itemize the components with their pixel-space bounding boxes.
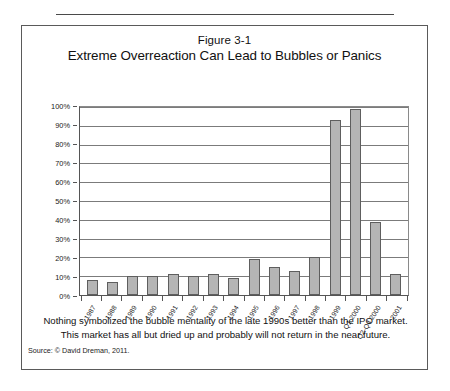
bar bbox=[168, 274, 179, 295]
x-axis-tick bbox=[407, 296, 408, 301]
bar bbox=[188, 276, 199, 295]
bar bbox=[208, 274, 219, 295]
figure-container: Figure 3-1 Extreme Overreaction Can Lead… bbox=[21, 25, 428, 370]
figure-number: Figure 3-1 bbox=[22, 34, 427, 46]
bar-slot bbox=[224, 107, 244, 295]
x-axis-tick bbox=[223, 296, 224, 301]
bar-slot bbox=[325, 107, 345, 295]
bar bbox=[228, 278, 239, 295]
bar-slot bbox=[102, 107, 122, 295]
y-axis-tick-label: 20% bbox=[55, 254, 70, 263]
bar bbox=[309, 257, 320, 295]
x-axis-tick bbox=[284, 296, 285, 301]
y-axis-tick-label: 90% bbox=[55, 121, 70, 130]
bar-chart: 0%10%20%30%40%50%60%70%80%90%100% 198719… bbox=[22, 81, 429, 316]
y-axis-tick-label: 80% bbox=[55, 140, 70, 149]
bar-slot bbox=[163, 107, 183, 295]
bar bbox=[269, 267, 280, 295]
bar bbox=[370, 222, 381, 295]
y-axis-tick-label: 0% bbox=[59, 292, 70, 301]
y-axis-tick-label: 30% bbox=[55, 235, 70, 244]
x-axis-tick bbox=[264, 296, 265, 301]
bar-slot bbox=[264, 107, 284, 295]
bar-slot bbox=[305, 107, 325, 295]
bar bbox=[289, 271, 300, 295]
x-axis-tick bbox=[142, 296, 143, 301]
x-axis-tick bbox=[244, 296, 245, 301]
bar-slot bbox=[82, 107, 102, 295]
y-axis-tick bbox=[73, 277, 77, 278]
y-axis-tick-label: 10% bbox=[55, 273, 70, 282]
figure-source: Source: © David Dreman, 2011. bbox=[28, 346, 129, 355]
x-axis-tick bbox=[162, 296, 163, 301]
bar-slot bbox=[386, 107, 406, 295]
figure-title: Extreme Overreaction Can Lead to Bubbles… bbox=[22, 48, 427, 63]
y-axis-tick-label: 50% bbox=[55, 197, 70, 206]
x-axis-tick bbox=[121, 296, 122, 301]
bar bbox=[350, 109, 361, 295]
bar-slot bbox=[244, 107, 264, 295]
bar bbox=[87, 280, 98, 295]
bar-slot bbox=[366, 107, 386, 295]
x-axis-tick bbox=[182, 296, 183, 301]
top-horizontal-rule bbox=[56, 14, 394, 15]
bar-slot bbox=[204, 107, 224, 295]
x-axis-tick bbox=[345, 296, 346, 301]
x-axis-tick bbox=[366, 296, 367, 301]
x-axis-tick bbox=[101, 296, 102, 301]
x-axis-tick bbox=[386, 296, 387, 301]
bar bbox=[249, 259, 260, 295]
bar bbox=[147, 276, 158, 295]
y-axis-tick bbox=[73, 220, 77, 221]
y-axis-tick bbox=[73, 125, 77, 126]
bar bbox=[330, 120, 341, 295]
y-axis-tick bbox=[73, 201, 77, 202]
y-axis-tick bbox=[73, 163, 77, 164]
plot-area bbox=[79, 106, 409, 296]
bar bbox=[390, 274, 401, 295]
y-axis-tick-label: 100% bbox=[51, 102, 70, 111]
y-axis-tick bbox=[73, 239, 77, 240]
y-axis-tick bbox=[73, 258, 77, 259]
y-axis-tick-label: 40% bbox=[55, 216, 70, 225]
bar-slot bbox=[183, 107, 203, 295]
x-axis-tick bbox=[305, 296, 306, 301]
bar-series bbox=[80, 107, 408, 295]
y-axis-tick bbox=[73, 106, 77, 107]
bar bbox=[107, 282, 118, 295]
bar-slot bbox=[123, 107, 143, 295]
caption-line-2: This market has all but dried up and pro… bbox=[42, 328, 409, 342]
bar-slot bbox=[143, 107, 163, 295]
bar-slot bbox=[285, 107, 305, 295]
y-axis-tick bbox=[73, 182, 77, 183]
x-axis-tick bbox=[81, 296, 82, 301]
y-axis-tick-label: 70% bbox=[55, 159, 70, 168]
x-axis-tick bbox=[203, 296, 204, 301]
y-axis-tick-label: 60% bbox=[55, 178, 70, 187]
figure-caption: Nothing symbolized the bubble mentality … bbox=[42, 314, 409, 342]
y-axis-tick bbox=[73, 296, 77, 297]
y-axis: 0%10%20%30%40%50%60%70%80%90%100% bbox=[22, 106, 77, 296]
figure-page: Figure 3-1 Extreme Overreaction Can Lead… bbox=[0, 0, 450, 391]
caption-line-1: Nothing symbolized the bubble mentality … bbox=[42, 314, 409, 328]
x-axis-tick bbox=[325, 296, 326, 301]
y-axis-tick bbox=[73, 144, 77, 145]
bar-slot bbox=[345, 107, 365, 295]
bar bbox=[127, 276, 138, 295]
